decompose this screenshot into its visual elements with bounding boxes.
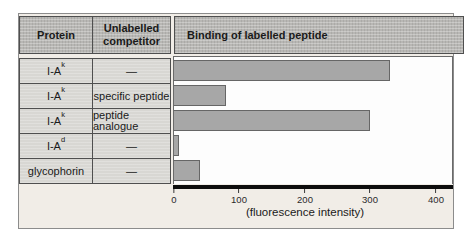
table-header-competitor: Unlabelled competitor (93, 17, 170, 53)
competitor-cell: — (93, 134, 170, 158)
plot-area (173, 56, 453, 184)
competitor-cell: — (93, 159, 170, 183)
tick-label: 200 (297, 194, 313, 205)
protein-cell: I-Ak (20, 84, 92, 108)
table-header-row: Protein Unlabelled competitor (19, 16, 171, 54)
competitor-label: specific peptide (94, 91, 170, 102)
protein-cell: I-Ak (20, 109, 92, 133)
competitor-cell: — (93, 59, 170, 83)
protein-cell: I-Ad (20, 134, 92, 158)
competitor-cell: peptide analogue (93, 109, 170, 133)
protein-label: I-Ak (47, 116, 65, 127)
tick-label: 100 (231, 194, 247, 205)
x-tick: 200 (297, 189, 313, 205)
screenshot-stage: Protein Unlabelled competitor Binding of… (0, 0, 465, 241)
competitor-label: — (126, 141, 137, 152)
protein-label: I-Ad (47, 141, 65, 152)
competitor-label: — (126, 166, 137, 177)
table-header-protein: Protein (20, 17, 92, 53)
tick-mark (435, 189, 436, 193)
protein-label: I-Ak (47, 66, 65, 77)
x-axis-ticks: 0 100 200 300 400 (174, 189, 452, 207)
x-tick: 300 (362, 189, 378, 205)
bar-ia-k-peptide-analogue (174, 110, 370, 131)
x-axis-title: (fluorescence intensity) (174, 206, 436, 218)
figure-panel: Protein Unlabelled competitor Binding of… (18, 13, 454, 229)
protein-cell: glycophorin (20, 159, 92, 183)
bar-glycophorin-none (174, 160, 200, 181)
protein-cell: I-Ak (20, 59, 92, 83)
tick-mark (304, 189, 305, 193)
bar-ia-d-none (174, 135, 179, 156)
protein-label: I-Ak (47, 91, 65, 102)
competitor-cell: specific peptide (93, 84, 170, 108)
x-tick: 100 (231, 189, 247, 205)
competitor-label: peptide analogue (93, 110, 170, 132)
tick-label: 300 (362, 194, 378, 205)
tick-mark (369, 189, 370, 193)
tick-mark (238, 189, 239, 193)
tick-label: 0 (171, 194, 176, 205)
x-tick: 400 (428, 189, 444, 205)
data-table: I-Ak — I-Ak specific peptide I-Ak peptid… (19, 58, 171, 184)
protein-label: glycophorin (28, 166, 84, 177)
x-tick: 0 (171, 189, 176, 205)
bar-ia-k-specific-peptide (174, 85, 226, 106)
tick-mark (173, 189, 174, 193)
competitor-label: — (126, 66, 137, 77)
chart-title: Binding of labelled peptide (187, 29, 328, 41)
bar-ia-k-none (174, 60, 390, 81)
tick-label: 400 (428, 194, 444, 205)
table-header-competitor-label: Unlabelled competitor (93, 22, 170, 47)
table-header-protein-label: Protein (37, 29, 75, 42)
chart-header: Binding of labelled peptide (174, 16, 464, 54)
